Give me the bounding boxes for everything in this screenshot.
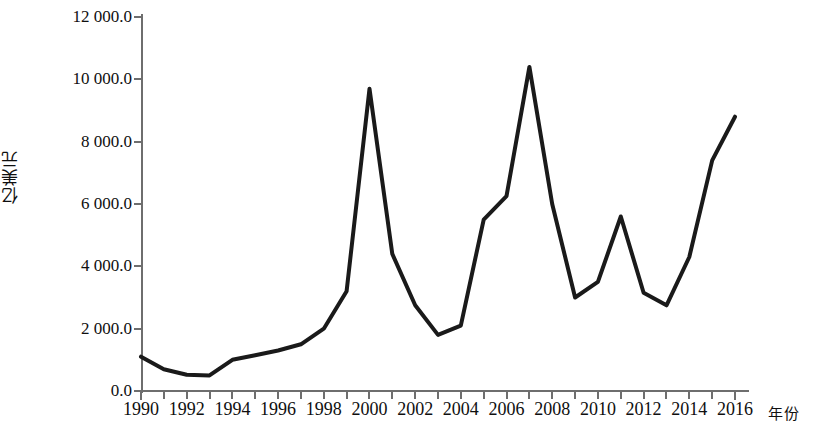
line-chart: 亿美元 12 000.0 10 000.0 8 000.0 6 000.0 4 …	[0, 0, 815, 423]
data-series-line	[141, 67, 735, 376]
x-axis-title: 年份	[768, 402, 800, 423]
series-layer	[0, 0, 815, 423]
